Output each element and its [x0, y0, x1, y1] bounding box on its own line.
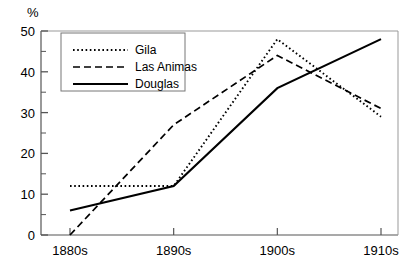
y-tick-label: 50	[21, 24, 35, 39]
x-axis: 1880s1890s1900s1910s	[52, 228, 399, 258]
legend-label-las-animas: Las Animas	[135, 60, 197, 74]
y-tick-label: 0	[28, 228, 35, 243]
x-tick-label: 1900s	[260, 243, 296, 258]
chart-legend: GilaLas AnimasDouglas	[61, 33, 197, 91]
y-tick-label: 10	[21, 187, 35, 202]
chart-container: % 01020304050 1880s1890s1900s1910s GilaL…	[0, 0, 406, 268]
y-tick-label: 20	[21, 146, 35, 161]
y-axis-unit-label: %	[27, 5, 39, 20]
y-tick-label: 30	[21, 106, 35, 121]
x-tick-label: 1890s	[156, 243, 192, 258]
line-chart: % 01020304050 1880s1890s1900s1910s GilaL…	[0, 0, 406, 268]
x-tick-label: 1880s	[52, 243, 88, 258]
y-axis: 01020304050	[21, 24, 48, 243]
legend-label-douglas: Douglas	[135, 77, 179, 91]
legend-label-gila: Gila	[135, 43, 157, 57]
y-tick-label: 40	[21, 65, 35, 80]
x-tick-label: 1910s	[363, 243, 399, 258]
